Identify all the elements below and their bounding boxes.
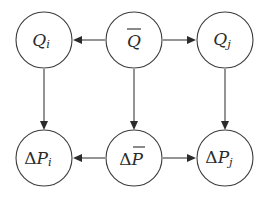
node-delta-p-i-subscript: i bbox=[48, 155, 52, 169]
edge-qj-to-dpj bbox=[221, 69, 229, 130]
edge-qi-to-dpi bbox=[40, 69, 48, 130]
node-delta-p-bar[interactable]: ΔP bbox=[106, 130, 162, 186]
edge-qbar-to-qj bbox=[163, 36, 196, 44]
node-delta-p-i-base: P bbox=[36, 148, 49, 168]
edge-qi-to-dpi-arrowhead bbox=[40, 121, 48, 130]
node-delta-p-i-label: ΔPi bbox=[24, 148, 52, 170]
node-delta-p-bar-label: ΔP bbox=[119, 149, 143, 169]
node-delta-p-j[interactable]: ΔPj bbox=[197, 130, 253, 186]
node-q-bar-label: Q bbox=[127, 31, 141, 51]
node-q-bar-base: Q bbox=[127, 31, 141, 51]
node-delta-p-j-prefix: Δ bbox=[205, 147, 217, 167]
node-q-bar[interactable]: Q bbox=[106, 12, 162, 68]
edge-dpbar-to-dpi bbox=[73, 154, 105, 162]
causal-diagram: Qi Q Qj ΔPi bbox=[0, 0, 267, 199]
node-delta-p-bar-base: P bbox=[130, 149, 143, 169]
node-q-j-base: Q bbox=[213, 29, 227, 49]
diagram-canvas: Qi Q Qj ΔPi bbox=[0, 0, 267, 199]
edge-qbar-to-qj-arrowhead bbox=[187, 36, 196, 44]
edge-dpbar-to-dpj-arrowhead bbox=[187, 154, 196, 162]
edge-qj-to-dpj-arrowhead bbox=[221, 121, 229, 130]
node-q-i[interactable]: Qi bbox=[16, 12, 72, 68]
edge-dpbar-to-dpi-arrowhead bbox=[73, 154, 82, 162]
edge-dpbar-to-dpj bbox=[163, 154, 196, 162]
node-q-j[interactable]: Qj bbox=[197, 12, 253, 68]
node-delta-p-j-base: P bbox=[217, 147, 230, 167]
edge-qbar-to-qi-arrowhead bbox=[73, 36, 82, 44]
edge-qbar-to-qi bbox=[73, 36, 105, 44]
node-delta-p-j-label: ΔPj bbox=[205, 147, 233, 170]
node-delta-p-i-prefix: Δ bbox=[24, 148, 36, 168]
node-q-i-subscript: i bbox=[46, 37, 50, 51]
edge-qbar-to-dpbar bbox=[130, 69, 138, 130]
node-delta-p-i[interactable]: ΔPi bbox=[16, 130, 72, 186]
node-delta-p-bar-prefix: Δ bbox=[119, 149, 131, 169]
node-q-i-base: Q bbox=[32, 30, 46, 50]
edge-qbar-to-dpbar-arrowhead bbox=[130, 121, 138, 130]
